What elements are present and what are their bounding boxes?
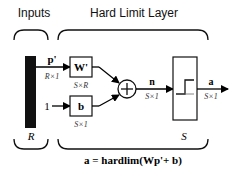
input-vector-dim: R×1 [44,72,59,81]
input-vector-bar [25,56,36,128]
layer-section-title: Hard Limit Layer [90,6,178,20]
weight-matrix-dim: S×R [74,81,88,90]
layer-top-bracket [58,30,208,40]
layer-equation: a = hardlim(Wp'+ b) [84,154,182,167]
bias-dim: S×1 [74,120,87,129]
hard-limit-layer-diagram: Inputs Hard Limit Layer p' R×1 W' S×R 1 … [0,0,244,176]
net-input-label: n [149,76,155,87]
output-dim: S×1 [204,92,217,101]
bias-label: b [78,100,84,112]
input-vector-label: p' [47,53,56,65]
layer-size-label: S [181,130,187,142]
weight-to-summer-arrow [99,67,119,83]
inputs-section-title: Inputs [18,6,51,20]
bias-to-summer-arrow [99,95,119,106]
weight-matrix-label: W' [74,61,88,73]
output-label: a [209,76,214,87]
input-size-label: R [27,130,35,142]
inputs-top-bracket [14,30,48,40]
net-input-dim: S×1 [145,92,158,101]
bias-input-label: 1 [44,100,50,112]
